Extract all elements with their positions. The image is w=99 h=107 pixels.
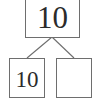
part-left-box[interactable]: 10	[9, 58, 45, 98]
part-right-box[interactable]	[56, 58, 92, 98]
connector-whole-to-part-left	[27, 37, 52, 58]
whole-value: 10	[37, 2, 68, 33]
number-bond-diagram: 10 10	[0, 0, 99, 107]
whole-box[interactable]: 10	[25, 0, 80, 38]
part-left-value: 10	[16, 68, 39, 91]
connector-whole-to-part-right	[52, 37, 74, 58]
